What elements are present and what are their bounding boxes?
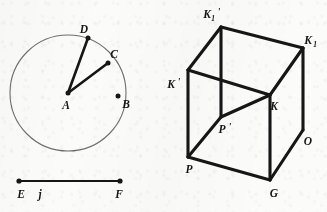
point-e-dot[interactable]: [16, 178, 21, 183]
point-b-label: B: [121, 98, 130, 110]
point-d-label: D: [79, 23, 89, 35]
point-e-label: E: [16, 188, 25, 200]
cube-label-p-prime-base: P: [218, 123, 226, 135]
cube-label-k1-base: K: [303, 34, 313, 46]
cube-label-k-prime-mark: ': [178, 76, 181, 87]
segment-j-label: j: [36, 188, 42, 201]
cube-figure-group: [188, 27, 303, 180]
point-a-label: A: [61, 99, 70, 111]
point-f-dot[interactable]: [117, 178, 122, 183]
geometry-figure-canvas: A D C B E j F: [0, 0, 327, 212]
point-b-dot[interactable]: [116, 94, 121, 99]
cube-label-k-prime-base: K: [166, 78, 176, 90]
cube-vertex-label-p-prime: P ': [218, 121, 231, 135]
circle-figure-group: A D C B: [10, 23, 130, 151]
cube-label-p-prime-mark: ': [229, 121, 232, 132]
cube-label-k1-prime-sub: 1: [211, 14, 215, 23]
cube-vertex-label-k: K: [269, 100, 279, 112]
cube-vertex-label-p: P: [185, 163, 193, 175]
cube-vertex-label-k-prime: K ': [166, 76, 180, 90]
point-a-dot[interactable]: [66, 91, 71, 96]
cube-label-k1-prime-mark: ': [218, 6, 221, 17]
point-d-dot[interactable]: [86, 36, 91, 41]
point-f-label: F: [114, 188, 123, 200]
cube-edge-kp-k: [188, 70, 270, 95]
cube-edge-pp-k: [221, 95, 270, 117]
cube-edge-pp-p: [188, 117, 221, 157]
point-c-label: C: [110, 48, 118, 60]
point-c-dot[interactable]: [106, 61, 111, 66]
cube-edge-k1p-k1: [221, 27, 303, 48]
cube-vertex-label-k1-prime: K 1 ': [202, 6, 220, 23]
segment-figure-group: E j F: [16, 178, 123, 201]
cube-edge-k1-k: [270, 48, 303, 95]
cube-label-k1-sub: 1: [313, 40, 317, 49]
cube-vertex-label-g: G: [270, 187, 279, 199]
cube-edge-p-g: [188, 157, 270, 180]
diagram-page: A D C B E j F: [0, 0, 327, 212]
cube-edge-g-o: [270, 130, 303, 180]
cube-vertex-label-o: O: [304, 135, 312, 147]
cube-vertex-label-k1: K 1: [303, 34, 317, 49]
cube-edge-k1p-kp: [188, 27, 221, 70]
